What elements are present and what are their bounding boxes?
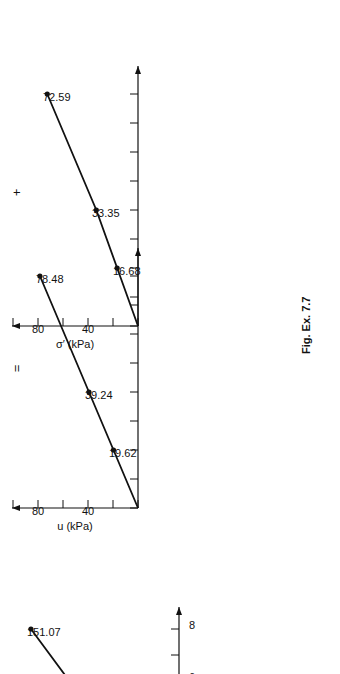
- chart-pore-water-pressure: 40 80 u (kPa) 19.62 39.24 78.48: [0, 356, 300, 530]
- data-point-label: 39.24: [85, 389, 113, 401]
- figure-caption: Fig. Ex. 7.7: [300, 294, 312, 354]
- operator-plus: +: [10, 189, 23, 197]
- x-ticks: [171, 629, 179, 674]
- operator-equals: =: [10, 365, 23, 373]
- data-point-label: 78.48: [36, 273, 64, 285]
- chart-total-stress-svg: 0 2 4 6 8 Depth (m): [0, 589, 215, 674]
- figure-page: 40 80 σ′ (kPa) 16.68 33.35 72.59 +: [0, 0, 340, 674]
- y-tick-label-40: 40: [82, 505, 94, 517]
- chart-total-stress-panel: 0 2 4 6 8 Depth (m): [0, 589, 215, 674]
- y-tick-label-80: 80: [32, 505, 44, 517]
- chart-pore-water-pressure-panel: 40 80 u (kPa) 19.62 39.24 78.48: [0, 230, 174, 530]
- x-axis-arrow: [176, 607, 182, 615]
- x-axis-arrow: [135, 66, 141, 74]
- data-point-label: 151.07: [27, 626, 61, 638]
- x-tick-label-8: 8: [189, 619, 195, 631]
- chart-pore-water-pressure-svg: 40 80 u (kPa) 19.62 39.24 78.48: [0, 230, 174, 530]
- data-point-label: 19.62: [109, 447, 137, 459]
- data-point-label: 33.35: [92, 207, 120, 219]
- x-axis-arrow: [135, 248, 141, 256]
- x-ticks: [130, 276, 138, 508]
- y-axis-title: u (kPa): [57, 520, 92, 532]
- data-point-label: 72.59: [43, 91, 71, 103]
